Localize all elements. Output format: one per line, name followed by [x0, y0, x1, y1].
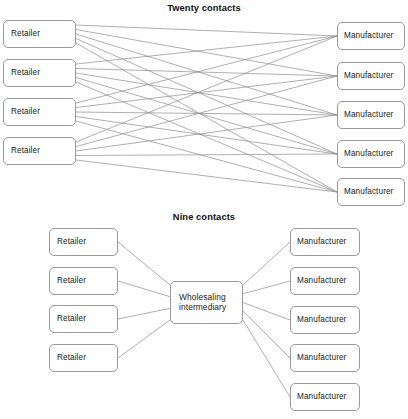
twenty-contacts-manufacturer-2-label: Manufacturer	[344, 110, 393, 120]
nine-contacts-wholesaling-intermediary-0: Wholesaling intermediary	[170, 281, 243, 324]
nine-contacts-retailer-3: Retailer	[49, 344, 118, 372]
edge-r3-m2	[76, 115, 337, 151]
edge-r2-m1	[76, 76, 337, 108]
edge-r2-m2	[76, 112, 337, 115]
twenty-contacts-retailer-0-label: Retailer	[11, 29, 40, 39]
edge-r3-m3	[76, 154, 337, 156]
edge-hub-m2	[243, 303, 290, 321]
nine-contacts-retailer-0: Retailer	[49, 228, 118, 256]
edge-r3-m1	[76, 76, 337, 147]
edge-hub-m4	[243, 320, 290, 397]
twenty-contacts-manufacturer-1: Manufacturer	[337, 62, 405, 90]
nine-contacts-manufacturer-3-label: Manufacturer	[297, 353, 346, 363]
nine-contacts-manufacturer-0: Manufacturer	[290, 228, 360, 256]
edge-hub-r0	[118, 242, 170, 285]
edge-r3-m0	[76, 36, 337, 142]
edge-r0-m0	[76, 25, 337, 36]
nine-contacts-manufacturer-1: Manufacturer	[290, 267, 360, 295]
edge-r0-m4	[76, 43, 337, 192]
edge-hub-r2	[118, 308, 170, 319]
edge-hub-m0	[243, 242, 290, 285]
nine-contacts-manufacturer-4-label: Manufacturer	[297, 392, 346, 402]
twenty-contacts-retailer-1: Retailer	[3, 59, 76, 87]
edge-r1-m1	[76, 69, 337, 77]
edge-r3-m4	[76, 160, 337, 192]
nine-contacts-retailer-1-label: Retailer	[57, 276, 86, 286]
twenty-contacts-manufacturer-1-label: Manufacturer	[344, 71, 393, 81]
twenty-contacts-manufacturer-4-label: Manufacturer	[344, 187, 393, 197]
edge-hub-r1	[118, 281, 170, 297]
panel-title-nine-contacts: Nine contacts	[0, 212, 408, 222]
edge-r2-m0	[76, 36, 337, 103]
twenty-contacts-retailer-3: Retailer	[3, 137, 76, 165]
twenty-contacts-retailer-2-label: Retailer	[11, 107, 40, 117]
nine-contacts-manufacturer-0-label: Manufacturer	[297, 237, 346, 247]
twenty-contacts-manufacturer-0-label: Manufacturer	[344, 31, 393, 41]
twenty-contacts-manufacturer-2: Manufacturer	[337, 101, 405, 129]
edge-r0-m3	[76, 39, 337, 155]
panel-title-twenty-contacts: Twenty contacts	[0, 3, 408, 13]
twenty-contacts-retailer-3-label: Retailer	[11, 146, 40, 156]
edge-r1-m4	[76, 82, 337, 192]
twenty-contacts-retailer-1-label: Retailer	[11, 68, 40, 78]
twenty-contacts-retailer-2: Retailer	[3, 98, 76, 126]
twenty-contacts-manufacturer-3-label: Manufacturer	[344, 149, 393, 159]
edge-hub-m3	[243, 311, 290, 358]
nine-contacts-retailer-3-label: Retailer	[57, 353, 86, 363]
nine-contacts-manufacturer-4: Manufacturer	[290, 383, 360, 411]
nine-contacts-manufacturer-3: Manufacturer	[290, 344, 360, 372]
nine-contacts-retailer-2-label: Retailer	[57, 314, 86, 324]
twenty-contacts-manufacturer-4: Manufacturer	[337, 178, 405, 206]
edge-hub-r3	[118, 320, 170, 358]
edge-r1-m3	[76, 78, 337, 155]
twenty-contacts-manufacturer-3: Manufacturer	[337, 140, 405, 168]
edge-r0-m2	[76, 34, 337, 115]
edge-r1-m0	[76, 36, 337, 64]
twenty-contacts-edges	[76, 25, 337, 192]
twenty-contacts-retailer-0: Retailer	[3, 20, 76, 48]
nine-contacts-retailer-0-label: Retailer	[57, 237, 86, 247]
edge-r2-m4	[76, 121, 337, 192]
edge-r1-m2	[76, 73, 337, 115]
edge-r0-m1	[76, 30, 337, 77]
diagram-canvas: Twenty contacts Nine contacts RetailerRe…	[0, 0, 408, 419]
nine-contacts-manufacturer-2-label: Manufacturer	[297, 315, 346, 325]
edge-r2-m3	[76, 117, 337, 155]
edge-hub-m1	[243, 281, 290, 294]
twenty-contacts-manufacturer-0: Manufacturer	[337, 22, 405, 50]
nine-contacts-manufacturer-2: Manufacturer	[290, 306, 360, 334]
nine-contacts-wholesaling-intermediary-0-label: Wholesaling intermediary	[179, 293, 226, 313]
nine-contacts-manufacturer-1-label: Manufacturer	[297, 276, 346, 286]
nine-contacts-retailer-2: Retailer	[49, 305, 118, 333]
nine-contacts-retailer-1: Retailer	[49, 267, 118, 295]
